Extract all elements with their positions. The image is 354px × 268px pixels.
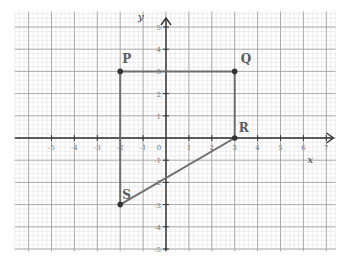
coordinate-plane: xy -5-4-3-2-1123456754321-1-2-3-4-50 PQR… [0,0,354,268]
minor-grid [15,11,336,251]
y-tick-label: 4 [157,46,162,54]
x-tick-label: 5 [278,144,282,152]
point-label-s: S [122,188,131,202]
x-axis-label: x [307,154,313,165]
tick-labels: -5-4-3-2-1123456754321-1-2-3-4-50 [48,24,328,254]
y-tick-label: -1 [154,157,161,165]
y-tick-label: -4 [154,224,161,232]
y-tick-label: -3 [154,202,161,210]
x-tick-label: 7 [324,144,328,152]
x-tick-label: -4 [71,144,78,152]
x-tick-label: 4 [255,144,260,152]
axes: xy [15,11,334,251]
origin-label: 0 [157,144,161,152]
y-tick-label: 2 [157,91,161,99]
y-tick-label: -5 [154,246,161,254]
y-axis-label: y [137,11,144,22]
coordinate-diagram: xy -5-4-3-2-1123456754321-1-2-3-4-50 PQR… [0,0,354,268]
x-tick-label: 6 [301,144,306,152]
y-tick-label: 5 [157,24,161,32]
x-tick-label: -5 [48,144,55,152]
x-tick-label: 1 [187,144,191,152]
segment-rs [120,138,235,205]
point-s [117,202,123,208]
point-p [117,69,123,75]
x-tick-label: -3 [94,144,101,152]
x-tick-label: 3 [232,144,236,152]
point-label-r: R [239,121,250,135]
point-r [232,135,238,141]
x-tick-label: -1 [140,144,147,152]
point-label-q: Q [241,52,251,66]
y-tick-label: 1 [157,113,161,121]
point-label-p: P [122,52,131,66]
point-q [232,69,238,75]
